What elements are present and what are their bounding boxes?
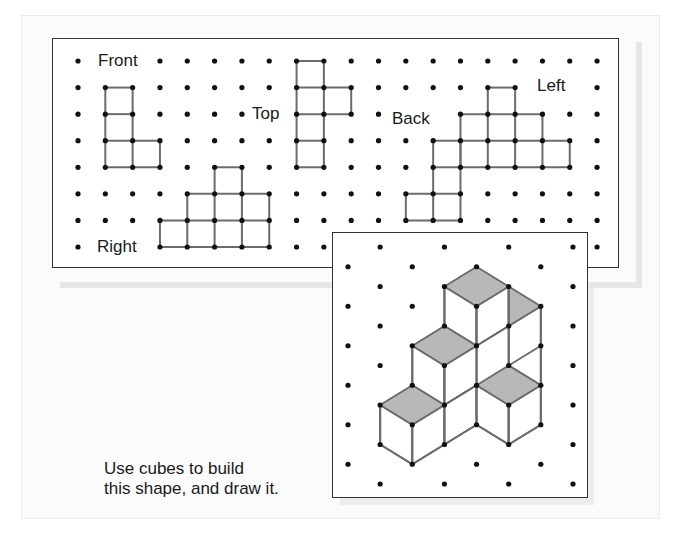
iso-grid-dot [506,481,511,486]
iso-grid-dot [506,244,511,249]
iso-grid-dot [442,323,447,328]
instruction-line-2: this shape, and draw it. [104,479,279,499]
iso-grid-dot [410,422,415,427]
iso-grid-dot [442,244,447,249]
iso-grid-dot [378,363,383,368]
iso-grid-dot [506,442,511,447]
iso-grid-dot [538,304,543,309]
iso-grid-dot [570,442,575,447]
iso-grid-dot [410,462,415,467]
iso-grid-dot [410,264,415,269]
iso-grid-dot [506,284,511,289]
isometric-shape-drawing [0,0,680,536]
iso-grid-dot [506,323,511,328]
iso-grid-dot [538,343,543,348]
iso-grid-dot [442,284,447,289]
iso-grid-dot [378,244,383,249]
iso-grid-dot [442,481,447,486]
iso-grid-dot [345,343,350,348]
iso-grid-dot [410,304,415,309]
iso-grid-dot [378,442,383,447]
iso-grid-dot [538,264,543,269]
iso-grid-dot [442,442,447,447]
iso-grid-dot [570,323,575,328]
iso-grid-dot [538,422,543,427]
iso-grid-dot [378,284,383,289]
iso-grid-dot [506,402,511,407]
iso-grid-dot [474,304,479,309]
iso-grid-dot [442,363,447,368]
iso-grid-dot [345,304,350,309]
iso-grid-dot [474,343,479,348]
iso-grid-dot [442,402,447,407]
instruction-line-1: Use cubes to build [104,459,279,479]
iso-grid-dot [410,383,415,388]
iso-grid-dot [570,244,575,249]
iso-grid-dot [345,264,350,269]
iso-grid-dot [506,363,511,368]
iso-grid-dot [378,402,383,407]
iso-grid-dot [378,481,383,486]
iso-grid-dot [378,323,383,328]
iso-grid-dot [538,383,543,388]
instruction-text: Use cubes to build this shape, and draw … [104,459,279,499]
iso-grid-dot [345,422,350,427]
iso-grid-dot [410,343,415,348]
iso-grid-dot [345,383,350,388]
iso-grid-dot [345,462,350,467]
iso-grid-dot [570,284,575,289]
iso-grid-dot [570,402,575,407]
iso-grid-dot [570,363,575,368]
iso-grid-dot [474,422,479,427]
iso-grid-dot [538,462,543,467]
iso-grid-dot [570,481,575,486]
iso-grid-dot [474,462,479,467]
iso-grid-dot [474,264,479,269]
iso-grid-dot [474,383,479,388]
